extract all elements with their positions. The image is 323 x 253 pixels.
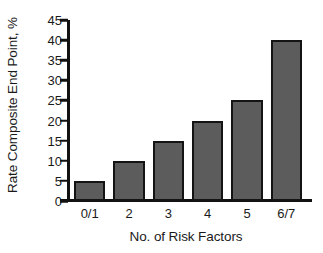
x-axis-tick-labels: 0/123456/7 bbox=[70, 205, 306, 223]
x-axis-title: No. of Risk Factors bbox=[60, 229, 312, 244]
y-tick-mark bbox=[60, 79, 68, 82]
bar-slot bbox=[113, 20, 144, 201]
x-tick-label: 4 bbox=[188, 205, 227, 223]
y-axis-title: Rate Composite End Point, % bbox=[2, 7, 22, 203]
bar bbox=[231, 100, 262, 201]
bar bbox=[271, 40, 302, 201]
y-tick-mark bbox=[60, 160, 68, 163]
bar-slot bbox=[271, 20, 302, 201]
bar bbox=[192, 121, 223, 201]
y-tick-label: 0 bbox=[36, 195, 62, 208]
x-tick-label: 2 bbox=[109, 205, 148, 223]
bar bbox=[74, 181, 105, 201]
y-tick-mark bbox=[60, 180, 68, 183]
y-tick-mark bbox=[60, 39, 68, 42]
bar-slot bbox=[74, 20, 105, 201]
y-tick-mark bbox=[60, 99, 68, 102]
y-tick-label: 45 bbox=[36, 14, 62, 27]
y-tick-label: 30 bbox=[36, 74, 62, 87]
y-tick-mark bbox=[60, 59, 68, 62]
bar-chart-figure: Rate Composite End Point, % 051015202530… bbox=[0, 0, 323, 253]
bar-slot bbox=[153, 20, 184, 201]
x-tick-label: 3 bbox=[149, 205, 188, 223]
y-tick-label: 5 bbox=[36, 174, 62, 187]
y-tick-mark bbox=[60, 139, 68, 142]
y-tick-label: 15 bbox=[36, 134, 62, 147]
bar bbox=[113, 161, 144, 201]
bar-slot bbox=[192, 20, 223, 201]
y-tick-label: 40 bbox=[36, 34, 62, 47]
y-tick-label: 20 bbox=[36, 114, 62, 127]
y-tick-mark bbox=[60, 19, 68, 22]
y-tick-label: 25 bbox=[36, 94, 62, 107]
bar bbox=[153, 141, 184, 201]
y-tick-label: 10 bbox=[36, 154, 62, 167]
y-tick-label: 35 bbox=[36, 54, 62, 67]
plot-area bbox=[70, 20, 306, 201]
x-tick-label: 0/1 bbox=[70, 205, 109, 223]
y-tick-mark bbox=[60, 119, 68, 122]
x-tick-label: 6/7 bbox=[267, 205, 306, 223]
y-axis-tick-labels: 051015202530354045 bbox=[36, 14, 62, 200]
x-tick-label: 5 bbox=[227, 205, 266, 223]
y-tick-mark bbox=[60, 200, 68, 203]
bar-slot bbox=[231, 20, 262, 201]
